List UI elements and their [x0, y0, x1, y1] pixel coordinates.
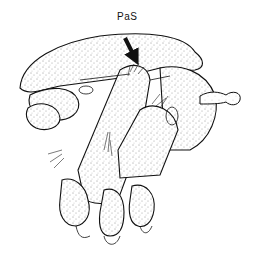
- label-pas: PaS: [117, 11, 137, 22]
- anterior-lobe-lower: [26, 104, 60, 130]
- antenna-process: [200, 92, 240, 105]
- palp-tip-center: [104, 236, 120, 244]
- specimen-drawing: [0, 0, 257, 271]
- palp-center: [99, 189, 124, 236]
- palp-tip-left: [76, 226, 90, 238]
- eye-socket-left: [79, 86, 93, 94]
- anatomical-figure: PaS: [0, 0, 257, 271]
- palp-right: [129, 185, 154, 226]
- setae-cluster-left: [48, 150, 64, 168]
